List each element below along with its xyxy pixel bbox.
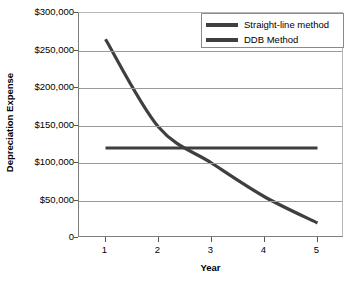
plot-area: Straight-line method DDB Method [78, 12, 343, 237]
chart-legend: Straight-line method DDB Method [201, 13, 344, 48]
gridline [79, 88, 342, 89]
x-axis-tick-label: 4 [249, 244, 279, 255]
legend-label: Straight-line method [244, 19, 329, 30]
gridline [79, 126, 342, 127]
y-axis-tick-label: 0 [18, 232, 74, 242]
y-axis-tick-labels: $300,000$250,000$200,000$150,000$100,000… [16, 0, 74, 281]
depreciation-expense-line-chart: Depreciation Expense $300,000$250,000$20… [0, 0, 355, 281]
legend-swatch-icon [206, 38, 238, 42]
legend-swatch-icon [206, 23, 238, 27]
legend-item-ddb[interactable]: DDB Method [202, 32, 343, 47]
x-axis-tick-mark [158, 237, 159, 242]
x-axis-tick-label: 5 [302, 244, 332, 255]
y-axis-title-label: Depreciation Expense [5, 73, 16, 172]
y-axis-tick-label: $50,000 [18, 195, 74, 205]
x-axis-tick-labels: 12345 [78, 244, 343, 258]
gridline [79, 201, 342, 202]
y-axis-tick-label: $200,000 [18, 82, 74, 92]
x-axis-tick-label: 3 [196, 244, 226, 255]
y-axis-tick-label: $150,000 [18, 120, 74, 130]
x-axis-tick-mark [105, 237, 106, 242]
gridline [79, 163, 342, 164]
y-axis-tick-label: $100,000 [18, 157, 74, 167]
gridline [79, 51, 342, 52]
x-axis-tick-mark [264, 237, 265, 242]
x-axis-tick-marks [78, 237, 343, 243]
legend-label: DDB Method [244, 34, 298, 45]
legend-item-straight-line[interactable]: Straight-line method [202, 17, 343, 32]
y-axis-tick-label: $250,000 [18, 45, 74, 55]
x-axis-tick-mark [317, 237, 318, 242]
x-axis-tick-label: 1 [90, 244, 120, 255]
series-line-ddb [106, 39, 318, 223]
y-axis-tick-label: $300,000 [18, 7, 74, 17]
x-axis-tick-label: 2 [143, 244, 173, 255]
x-axis-tick-mark [211, 237, 212, 242]
x-axis-title: Year [78, 262, 343, 273]
